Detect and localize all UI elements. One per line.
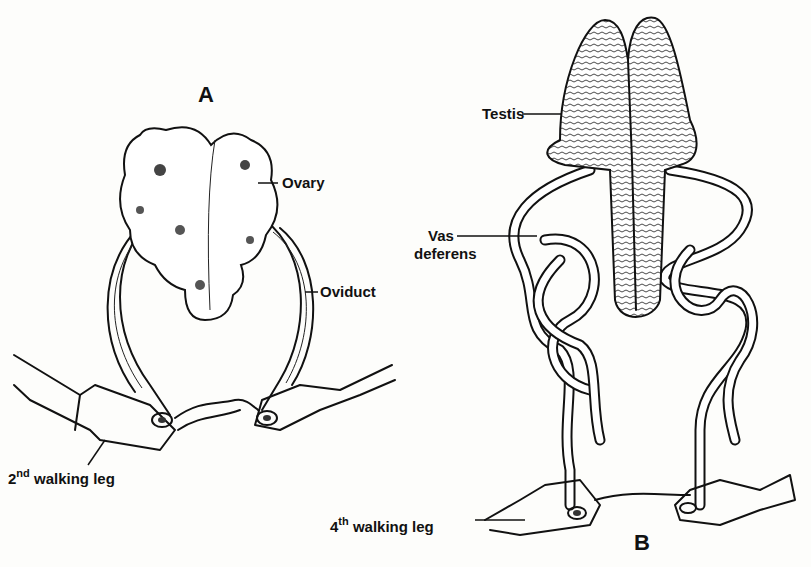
fourth-walking-leg-label: 4th walking leg — [330, 513, 434, 535]
second-walking-leg-label: 2nd walking leg — [8, 465, 115, 487]
leg-text: walking leg — [34, 470, 115, 487]
ovary-shape — [120, 127, 277, 320]
left-walking-leg-a — [14, 355, 175, 450]
right-walking-leg-b — [675, 475, 795, 525]
left-walking-leg-b — [485, 480, 600, 535]
reproductive-organs-illustration — [0, 0, 811, 567]
testis-label: Testis — [482, 106, 524, 122]
ovary-label: Ovary — [282, 175, 325, 191]
vas-deferens-label-line1: Vas — [428, 228, 454, 244]
panel-b-drawing — [457, 18, 795, 535]
oviduct-label: Oviduct — [320, 284, 376, 300]
panel-a-label: A — [198, 87, 214, 103]
vas-deferens-label-line2: deferens — [414, 246, 477, 262]
leg-text: walking leg — [353, 518, 434, 535]
leg-ordinal-suffix: nd — [16, 467, 29, 479]
leg-ordinal-suffix: th — [338, 515, 348, 527]
panel-b-label: B — [634, 535, 650, 551]
right-walking-leg-a — [255, 365, 395, 430]
